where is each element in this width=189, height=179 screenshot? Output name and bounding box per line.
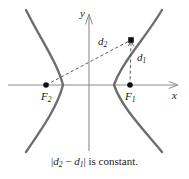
focus-label-f2-subscript: 2: [48, 95, 52, 104]
focus-label-f1: F1: [125, 91, 135, 104]
focus-label-f1-subscript: 1: [132, 95, 136, 104]
focus-point-f2: [43, 82, 49, 88]
distance-label-d2-subscript: 2: [104, 40, 108, 49]
hyperbola-diagram-svg: [0, 0, 189, 179]
hyperbola-figure: y x F2 F1 d2 d1 |d2 − d1| is constant.: [0, 0, 189, 179]
focus-point-f1: [127, 82, 133, 88]
caption-minus: −: [63, 155, 75, 167]
caption-tail: is constant.: [86, 155, 138, 167]
distance-segment-d1: [130, 40, 131, 85]
hyperbola-right-branch: [114, 10, 162, 152]
figure-caption: |d2 − d1| is constant.: [0, 155, 189, 169]
focus-label-f2-base: F: [41, 90, 48, 102]
distance-label-d1-subscript: 1: [143, 56, 147, 65]
y-axis-label: y: [80, 8, 85, 19]
y-axis: [86, 14, 93, 151]
focus-label-f2: F2: [41, 91, 51, 104]
x-axis-label: x: [172, 90, 177, 101]
focus-label-f1-base: F: [125, 90, 132, 102]
curve-point-p: [128, 37, 134, 43]
hyperbola-left-branch: [26, 10, 63, 152]
distance-label-d2: d2: [98, 36, 107, 49]
x-axis: [8, 82, 178, 89]
distance-label-d1: d1: [137, 52, 146, 65]
